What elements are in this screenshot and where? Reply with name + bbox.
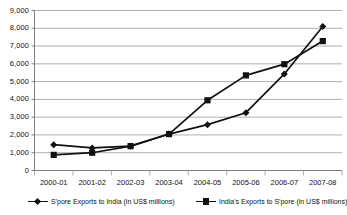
diamond-marker-icon <box>28 197 48 206</box>
series-spore-exports-to-india <box>50 23 326 151</box>
square-marker-icon <box>196 197 216 206</box>
legend-item-spore-exports-to-india: S'pore Exports to India (in US$ millions… <box>28 197 175 206</box>
data-point-square-marker <box>127 143 133 149</box>
x-axis-tick-label: 2004-05 <box>188 179 226 187</box>
x-axis-tick-label: 2002-03 <box>111 179 149 187</box>
data-point-square-marker <box>243 72 249 78</box>
x-axis-tick-label: 2005-06 <box>227 179 265 187</box>
y-axis-tick-label: 9,000 <box>1 7 29 15</box>
y-axis-tick-label: 2,000 <box>1 131 29 139</box>
data-point-square-marker <box>204 97 210 103</box>
y-axis-tick-label: 5,000 <box>1 78 29 86</box>
x-axis-tick-label: 2003-04 <box>150 179 188 187</box>
x-tick-marks <box>35 171 343 176</box>
x-axis-tick-label: 2006-07 <box>265 179 303 187</box>
x-axis-tick-label: 2007-08 <box>304 179 342 187</box>
legend-label: India's Exports to S'pore (in US$ millio… <box>219 198 347 206</box>
legend-label: S'pore Exports to India (in US$ millions… <box>51 198 175 206</box>
data-point-square-marker <box>320 38 326 44</box>
data-point-square-marker <box>281 61 287 67</box>
y-axis-tick-label: 8,000 <box>1 24 29 32</box>
data-point-square-marker <box>51 152 57 158</box>
y-axis-tick-label: 3,000 <box>1 113 29 121</box>
y-axis-tick-label: 4,000 <box>1 95 29 103</box>
x-axis-tick-label: 2001-02 <box>73 179 111 187</box>
chart-legend: S'pore Exports to India (in US$ millions… <box>0 194 347 214</box>
data-series-layer <box>50 23 326 158</box>
y-axis-tick-label: 6,000 <box>1 60 29 68</box>
legend-item-india-exports-to-spore: India's Exports to S'pore (in US$ millio… <box>196 197 347 206</box>
series-india-exports-to-spore <box>51 38 326 158</box>
data-point-diamond-marker <box>204 121 211 128</box>
gridlines <box>35 11 343 153</box>
y-axis-tick-label: 1,000 <box>1 149 29 157</box>
data-point-square-marker <box>166 131 172 137</box>
line-chart: 01,0002,0003,0004,0005,0006,0007,0008,00… <box>0 0 347 215</box>
series-line <box>54 41 323 155</box>
y-axis-tick-label: 0 <box>1 167 29 175</box>
data-point-diamond-marker <box>50 141 57 148</box>
series-line <box>54 27 323 148</box>
x-axis-tick-label: 2000-01 <box>35 179 73 187</box>
data-point-square-marker <box>89 150 95 156</box>
y-axis-tick-label: 7,000 <box>1 42 29 50</box>
